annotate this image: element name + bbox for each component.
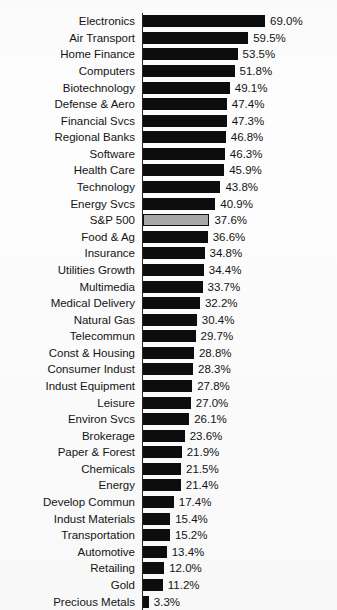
- chart-title: Sector Returns: [0, 0, 337, 3]
- bar: [143, 65, 235, 77]
- bar-track: 49.1%: [143, 82, 337, 94]
- bar-track: 28.8%: [143, 347, 337, 359]
- chart-row: Multimedia33.7%: [0, 278, 337, 295]
- category-label: Computers: [79, 65, 135, 77]
- category-label: Telecommun: [70, 330, 135, 342]
- bar-track: 27.0%: [143, 397, 337, 409]
- bar-track: 13.4%: [143, 546, 337, 558]
- bar: [143, 247, 205, 259]
- bar: [143, 82, 230, 94]
- bar: [143, 562, 164, 574]
- bar-value-label: 21.4%: [186, 479, 219, 491]
- bar: [143, 546, 167, 558]
- chart-row: Food & Ag36.6%: [0, 229, 337, 246]
- bar-value-label: 34.8%: [210, 247, 243, 259]
- chart-row: Technology43.8%: [0, 179, 337, 196]
- chart-row: Transportation15.2%: [0, 527, 337, 544]
- category-label: Regional Banks: [54, 131, 135, 143]
- bar-track: 27.8%: [143, 380, 337, 392]
- category-label: Technology: [77, 181, 135, 193]
- chart-row: S&P 50037.6%: [0, 212, 337, 229]
- bar-value-label: 17.4%: [179, 496, 212, 508]
- category-label: Energy Svcs: [70, 198, 135, 210]
- bar: [143, 181, 220, 193]
- bar: [143, 579, 163, 591]
- bar: [143, 164, 224, 176]
- bar-track: 3.3%: [143, 596, 337, 608]
- chart-row: Leisure27.0%: [0, 394, 337, 411]
- bar-track: 12.0%: [143, 562, 337, 574]
- bar-value-label: 49.1%: [235, 82, 268, 94]
- chart-row: Develop Commun17.4%: [0, 494, 337, 511]
- bar-track: 29.7%: [143, 330, 337, 342]
- bar-track: 26.1%: [143, 413, 337, 425]
- bar-highlight: [143, 214, 209, 226]
- bar-value-label: 32.2%: [205, 297, 238, 309]
- category-label: Chemicals: [81, 463, 135, 475]
- bar-track: 43.8%: [143, 181, 337, 193]
- bar: [143, 513, 170, 525]
- bar-track: 21.4%: [143, 479, 337, 491]
- bar: [143, 131, 226, 143]
- chart-row: Indust Equipment27.8%: [0, 378, 337, 395]
- bar-value-label: 47.4%: [232, 98, 265, 110]
- bar: [143, 363, 193, 375]
- chart-row: Telecommun29.7%: [0, 328, 337, 345]
- bar-track: 28.3%: [143, 363, 337, 375]
- bar: [143, 198, 215, 210]
- category-label: Health Care: [74, 164, 135, 176]
- chart-row: Consumer Indust28.3%: [0, 361, 337, 378]
- category-label: Food & Ag: [81, 231, 135, 243]
- bar-track: 53.5%: [143, 48, 337, 60]
- bar-value-label: 40.9%: [220, 198, 253, 210]
- bar-value-label: 43.8%: [225, 181, 258, 193]
- chart-row: Const & Housing28.8%: [0, 345, 337, 362]
- bar: [143, 397, 191, 409]
- bar-track: 45.9%: [143, 164, 337, 176]
- category-label: S&P 500: [90, 214, 135, 226]
- category-label: Home Finance: [60, 48, 135, 60]
- bar: [143, 314, 197, 326]
- chart-row: Computers51.8%: [0, 63, 337, 80]
- plot-area: Electronics69.0%Air Transport59.5%Home F…: [0, 13, 337, 610]
- chart-row: Insurance34.8%: [0, 245, 337, 262]
- bar-value-label: 21.5%: [186, 463, 219, 475]
- category-label: Gold: [111, 579, 135, 591]
- bar-value-label: 15.2%: [175, 529, 208, 541]
- bar-track: 15.2%: [143, 529, 337, 541]
- category-label: Paper & Forest: [58, 446, 135, 458]
- chart-row: Retailing12.0%: [0, 560, 337, 577]
- category-label: Energy: [99, 479, 135, 491]
- category-label: Insurance: [84, 247, 135, 259]
- bar: [143, 98, 227, 110]
- bar-track: 17.4%: [143, 496, 337, 508]
- category-label: Develop Commun: [43, 496, 135, 508]
- bar-value-label: 59.5%: [253, 32, 286, 44]
- bar-value-label: 3.3%: [154, 596, 180, 608]
- chart-row: Automotive13.4%: [0, 544, 337, 561]
- chart-row: Chemicals21.5%: [0, 461, 337, 478]
- chart-row: Environ Svcs26.1%: [0, 411, 337, 428]
- chart-row: Air Transport59.5%: [0, 30, 337, 47]
- category-label: Air Transport: [69, 32, 135, 44]
- category-label: Automotive: [77, 546, 135, 558]
- bar-value-label: 13.4%: [172, 546, 205, 558]
- category-label: Const & Housing: [49, 347, 135, 359]
- chart-row: Electronics69.0%: [0, 13, 337, 30]
- bar-value-label: 46.3%: [230, 148, 263, 160]
- category-label: Precious Metals: [53, 596, 135, 608]
- bar-value-label: 28.3%: [198, 363, 231, 375]
- bar-track: 37.6%: [143, 214, 337, 226]
- chart-row: Brokerage23.6%: [0, 427, 337, 444]
- category-label: Consumer Indust: [47, 363, 135, 375]
- bar-value-label: 27.8%: [197, 380, 230, 392]
- category-label: Environ Svcs: [68, 413, 135, 425]
- bar: [143, 148, 225, 160]
- bar-track: 11.2%: [143, 579, 337, 591]
- chart-row: Health Care45.9%: [0, 162, 337, 179]
- bar: [143, 48, 238, 60]
- category-label: Brokerage: [82, 430, 135, 442]
- bar-value-label: 23.6%: [190, 430, 223, 442]
- bar-track: 34.4%: [143, 264, 337, 276]
- category-label: Transportation: [61, 529, 135, 541]
